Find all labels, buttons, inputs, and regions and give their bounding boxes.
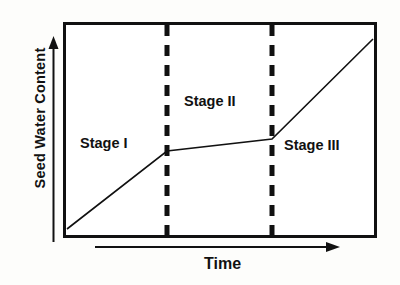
seed-water-content-chart: Seed Water Content Time Stage I Stage II… <box>0 0 400 285</box>
x-axis-label: Time <box>150 255 295 273</box>
plot-canvas <box>66 25 374 235</box>
y-axis-label: Seed Water Content <box>32 8 48 228</box>
y-axis-arrow-icon <box>47 36 60 242</box>
x-axis-arrow-icon <box>95 240 340 254</box>
seed-water-uptake-curve <box>67 39 373 229</box>
plot-frame: Stage I Stage II Stage III <box>63 22 377 238</box>
stage-3-label: Stage III <box>284 137 340 153</box>
stage-1-label: Stage I <box>80 135 128 151</box>
stage-2-label: Stage II <box>184 93 236 109</box>
